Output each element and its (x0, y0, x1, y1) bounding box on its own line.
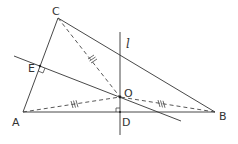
label-c: C (52, 5, 60, 18)
point-e (39, 65, 41, 67)
tick-marks-oc (88, 55, 97, 63)
tick-marks-oa (71, 100, 78, 108)
label-e: E (28, 62, 35, 75)
label-b: B (219, 110, 227, 123)
label-l: l (126, 37, 130, 51)
point-o (119, 96, 122, 99)
segment-ob (120, 97, 215, 112)
geometry-figure: A B C O D E l (0, 0, 238, 144)
tick-marks-ob (158, 100, 165, 108)
label-o: O (124, 87, 133, 100)
label-d: D (122, 116, 130, 129)
segment-oa (23, 97, 120, 112)
label-a: A (12, 116, 20, 129)
side-bc (58, 18, 215, 112)
point-d (119, 111, 121, 113)
